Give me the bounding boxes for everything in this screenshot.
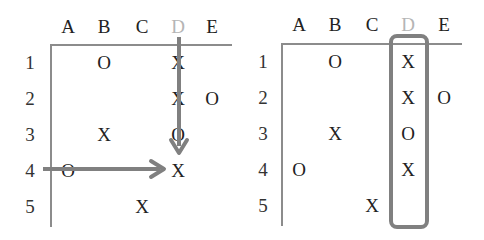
- col-header-a: A: [61, 17, 75, 36]
- cell-4-a: O: [292, 160, 306, 179]
- right-grid-panel: A B C D E 1 2 3 4 5 O X X O X O O X X: [242, 0, 484, 240]
- row-number-5: 5: [25, 197, 35, 216]
- cell-1-d: X: [401, 52, 415, 71]
- left-axis-line: [281, 43, 283, 226]
- row-number-4: 4: [258, 160, 268, 179]
- cell-4-a: O: [61, 161, 75, 180]
- cell-5-c: X: [135, 197, 149, 216]
- cell-2-e: O: [437, 88, 451, 107]
- col-header-c: C: [366, 15, 379, 34]
- left-grid-panel: A B C D E 1 2 3 4 5 O X X O X O O X X: [0, 0, 242, 240]
- col-header-e: E: [206, 17, 218, 36]
- cell-1-d: X: [171, 53, 185, 72]
- row-number-3: 3: [258, 124, 268, 143]
- cell-2-d: X: [401, 88, 415, 107]
- row-number-4: 4: [25, 161, 35, 180]
- left-axis-line: [50, 44, 52, 227]
- row-number-1: 1: [258, 52, 268, 71]
- cell-4-d: X: [171, 161, 185, 180]
- row-number-1: 1: [25, 53, 35, 72]
- row-number-3: 3: [25, 125, 35, 144]
- top-axis-line: [281, 43, 462, 45]
- col-header-b: B: [98, 17, 111, 36]
- col-header-c: C: [136, 17, 149, 36]
- cell-3-b: X: [328, 124, 342, 143]
- highlight-overlay: [242, 0, 484, 240]
- cell-3-b: X: [97, 125, 111, 144]
- col-header-b: B: [329, 15, 342, 34]
- col-header-d: D: [401, 15, 415, 34]
- cell-5-c: X: [365, 196, 379, 215]
- col-header-d: D: [171, 17, 185, 36]
- cell-3-d: O: [401, 124, 415, 143]
- row-number-5: 5: [258, 196, 268, 215]
- row-number-2: 2: [258, 88, 268, 107]
- cell-1-b: O: [97, 53, 111, 72]
- cell-4-d: X: [401, 160, 415, 179]
- col-header-e: E: [438, 15, 450, 34]
- row-number-2: 2: [25, 89, 35, 108]
- cell-2-d: X: [171, 89, 185, 108]
- cell-2-e: O: [205, 89, 219, 108]
- col-header-a: A: [292, 15, 306, 34]
- cell-3-d: O: [171, 125, 185, 144]
- cell-1-b: O: [328, 52, 342, 71]
- top-axis-line: [50, 44, 232, 46]
